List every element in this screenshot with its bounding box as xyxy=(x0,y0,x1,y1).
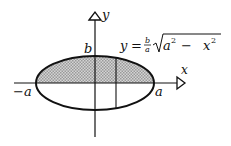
equation-lhs: y xyxy=(119,38,128,53)
radicand-minus: − xyxy=(181,38,192,53)
y-axis-arrow-icon xyxy=(89,12,101,20)
a-label: a xyxy=(155,84,163,99)
ellipse-diagram: y x b −a a y = b a a 2 − x 2 xyxy=(0,0,231,146)
radicand-x: x xyxy=(203,38,211,53)
fraction-denominator: a xyxy=(145,45,150,54)
radicand-a: a xyxy=(163,38,171,53)
equation-equals: = xyxy=(131,38,142,53)
y-axis-label: y xyxy=(101,7,110,22)
b-label: b xyxy=(84,41,92,56)
neg-a-label: −a xyxy=(13,84,32,99)
x-axis-arrow-icon xyxy=(177,77,185,89)
x-axis-label: x xyxy=(181,63,188,77)
exponent-a: 2 xyxy=(171,36,176,45)
exponent-x: 2 xyxy=(211,36,216,45)
fraction-numerator: b xyxy=(145,36,150,45)
ellipse-equation: y = b a a 2 − x 2 xyxy=(119,34,221,54)
